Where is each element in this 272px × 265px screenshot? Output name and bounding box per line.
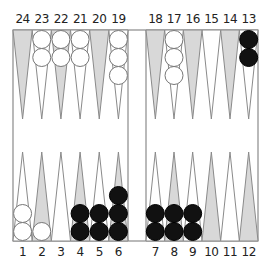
- point-label-12: 12: [239, 245, 258, 259]
- point-label-23: 23: [32, 12, 51, 26]
- point-label-18: 18: [146, 12, 165, 26]
- point-label-8: 8: [165, 245, 184, 259]
- black-checker-point-13[interactable]: [240, 31, 258, 49]
- black-checker-point-5[interactable]: [90, 223, 108, 241]
- point-label-14: 14: [221, 12, 240, 26]
- black-checker-point-6[interactable]: [109, 187, 127, 205]
- point-label-6: 6: [109, 245, 128, 259]
- white-checker-point-19[interactable]: [109, 67, 127, 85]
- point-label-20: 20: [90, 12, 109, 26]
- black-checker-point-4[interactable]: [71, 223, 89, 241]
- white-checker-point-1[interactable]: [14, 205, 32, 223]
- white-checker-point-17[interactable]: [165, 31, 183, 49]
- point-label-24: 24: [13, 12, 32, 26]
- point-label-7: 7: [146, 245, 165, 259]
- black-checker-point-9[interactable]: [184, 223, 202, 241]
- point-label-17: 17: [165, 12, 184, 26]
- backgammon-board: 242322212019181716151413123456789101112: [0, 0, 272, 265]
- white-checker-point-19[interactable]: [109, 49, 127, 67]
- point-label-21: 21: [71, 12, 90, 26]
- point-label-9: 9: [183, 245, 202, 259]
- point-label-1: 1: [13, 245, 32, 259]
- black-checker-point-8[interactable]: [165, 205, 183, 223]
- black-checker-point-9[interactable]: [184, 205, 202, 223]
- white-checker-point-17[interactable]: [165, 67, 183, 85]
- white-checker-point-23[interactable]: [33, 31, 51, 49]
- black-checker-point-7[interactable]: [146, 223, 164, 241]
- black-checker-point-7[interactable]: [146, 205, 164, 223]
- black-checker-point-6[interactable]: [109, 205, 127, 223]
- black-checker-point-13[interactable]: [240, 49, 258, 67]
- point-label-3: 3: [51, 245, 70, 259]
- white-checker-point-17[interactable]: [165, 49, 183, 67]
- white-checker-point-22[interactable]: [52, 49, 70, 67]
- white-checker-point-1[interactable]: [14, 223, 32, 241]
- white-checker-point-23[interactable]: [33, 49, 51, 67]
- point-label-15: 15: [202, 12, 221, 26]
- point-label-10: 10: [202, 245, 221, 259]
- black-checker-point-6[interactable]: [109, 223, 127, 241]
- white-checker-point-21[interactable]: [71, 31, 89, 49]
- point-label-2: 2: [32, 245, 51, 259]
- point-label-16: 16: [183, 12, 202, 26]
- board-graphic: [0, 0, 272, 265]
- point-label-22: 22: [51, 12, 70, 26]
- white-checker-point-2[interactable]: [33, 223, 51, 241]
- point-label-13: 13: [239, 12, 258, 26]
- black-checker-point-8[interactable]: [165, 223, 183, 241]
- white-checker-point-19[interactable]: [109, 31, 127, 49]
- point-label-4: 4: [71, 245, 90, 259]
- black-checker-point-5[interactable]: [90, 205, 108, 223]
- black-checker-point-4[interactable]: [71, 205, 89, 223]
- white-checker-point-22[interactable]: [52, 31, 70, 49]
- white-checker-point-21[interactable]: [71, 49, 89, 67]
- point-label-5: 5: [90, 245, 109, 259]
- point-label-19: 19: [109, 12, 128, 26]
- point-label-11: 11: [221, 245, 240, 259]
